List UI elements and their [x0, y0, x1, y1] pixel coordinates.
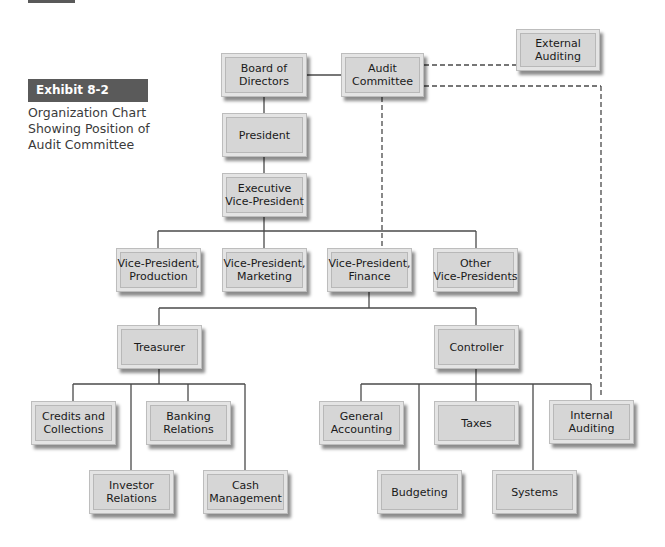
node-label: Controller — [449, 341, 503, 354]
node-label: Vice-Presidents — [433, 270, 517, 283]
node-audit-committee: AuditCommittee — [341, 53, 424, 97]
node-label: Collections — [42, 423, 105, 436]
node-label: Production — [118, 270, 200, 283]
node-board-of-directors: Board ofDirectors — [221, 53, 307, 97]
node-banking-relations: BankingRelations — [146, 401, 231, 445]
node-label: President — [239, 129, 290, 142]
node-external-auditing: ExternalAuditing — [516, 29, 600, 71]
node-label: Committee — [352, 75, 413, 88]
node-other-vice-presidents: OtherVice-Presidents — [433, 248, 518, 292]
node-label: Auditing — [535, 50, 581, 63]
node-credits-and-collections: Credits andCollections — [31, 401, 116, 445]
node-label: Cash — [209, 479, 281, 492]
node-cash-management: CashManagement — [203, 470, 288, 514]
node-label: Audit — [352, 62, 413, 75]
node-label: Finance — [329, 270, 411, 283]
node-label: Credits and — [42, 410, 105, 423]
node-label: Vice-President, — [118, 257, 200, 270]
node-label: Accounting — [331, 423, 392, 436]
node-label: Banking — [163, 410, 214, 423]
node-label: Internal — [569, 409, 615, 422]
node-budgeting: Budgeting — [377, 470, 462, 514]
node-internal-auditing: InternalAuditing — [549, 400, 634, 444]
node-executive-vice-president: ExecutiveVice-President — [222, 173, 307, 217]
node-label: Relations — [163, 423, 214, 436]
node-label: Vice-President — [225, 195, 303, 208]
node-label: Budgeting — [391, 486, 448, 499]
node-label: Directors — [239, 75, 289, 88]
node-vp-marketing: Vice-President,Marketing — [222, 248, 307, 292]
node-label: Taxes — [461, 417, 491, 430]
node-label: Vice-President, — [224, 257, 306, 270]
node-label: Board of — [239, 62, 289, 75]
node-president: President — [222, 113, 307, 157]
node-investor-relations: InvestorRelations — [89, 470, 174, 514]
node-label: Auditing — [569, 422, 615, 435]
node-label: Relations — [106, 492, 157, 505]
node-label: Management — [209, 492, 281, 505]
node-label: Other — [433, 257, 517, 270]
node-general-accounting: GeneralAccounting — [319, 401, 404, 445]
node-taxes: Taxes — [434, 401, 519, 445]
node-label: Vice-President, — [329, 257, 411, 270]
node-systems: Systems — [492, 470, 577, 514]
node-label: Systems — [511, 486, 558, 499]
node-treasurer: Treasurer — [117, 325, 202, 369]
node-label: External — [535, 37, 581, 50]
node-label: Marketing — [224, 270, 306, 283]
node-label: General — [331, 410, 392, 423]
node-label: Investor — [106, 479, 157, 492]
node-vp-production: Vice-President,Production — [116, 248, 201, 292]
node-vp-finance: Vice-President,Finance — [327, 248, 412, 292]
node-label: Executive — [225, 182, 303, 195]
node-controller: Controller — [434, 325, 519, 369]
node-label: Treasurer — [134, 341, 185, 354]
